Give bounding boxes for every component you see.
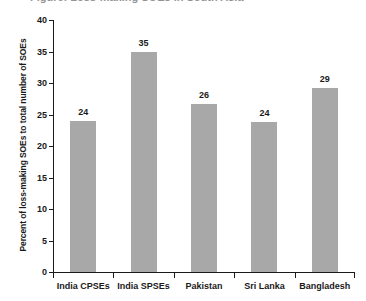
bar-value-label: 35 [139,38,149,48]
x-axis-category-label: India SPSEs [117,281,170,291]
y-axis-tick-label: 15 [37,173,47,183]
bar [251,122,277,272]
y-axis-tick [49,115,53,116]
y-axis-tick [49,83,53,84]
y-axis-title: Percent of loss-making SOEs to total num… [18,16,28,274]
y-axis-tick [49,241,53,242]
bar-value-label: 24 [78,107,88,117]
cut-off-title-strip: Figure: Loss-making SOEs in South Asia [0,0,366,7]
x-axis-tick [295,273,296,278]
y-axis-tick-label: 0 [42,267,47,277]
y-axis-line [53,20,54,273]
bar [131,52,157,273]
bar-value-label: 24 [259,108,269,118]
x-axis-tick [53,273,54,278]
x-axis-category-label: Pakistan [185,281,222,291]
y-axis-tick-label: 30 [37,78,47,88]
bar-value-label: 29 [320,74,330,84]
bar-chart-figure: Figure: Loss-making SOEs in South Asia P… [0,0,366,301]
y-axis-tick [49,20,53,21]
bar [70,121,96,272]
x-axis-line [53,272,355,273]
y-axis-tick [49,178,53,179]
y-axis-tick-label: 20 [37,141,47,151]
x-axis-category-label: Bangladesh [299,281,350,291]
y-axis-tick-label: 5 [42,236,47,246]
y-axis-tick-label: 25 [37,110,47,120]
y-axis-tick-label: 35 [37,47,47,57]
x-axis-tick [354,273,355,278]
y-axis-tick [49,52,53,53]
y-axis-tick [49,146,53,147]
chart-title-cutoff: Figure: Loss-making SOEs in South Asia [30,0,244,3]
plot-area: 0510152025303540 2435262429 India CPSEsI… [53,20,355,272]
y-axis-tick-label: 10 [37,204,47,214]
y-axis-tick-label: 40 [37,15,47,25]
x-axis-tick [174,273,175,278]
y-axis-tick [49,209,53,210]
bar [191,104,217,272]
x-axis-category-label: India CPSEs [57,281,110,291]
bar-value-label: 26 [199,90,209,100]
bar [312,88,338,272]
x-axis-tick [234,273,235,278]
x-axis-tick [113,273,114,278]
x-axis-category-label: Sri Lanka [244,281,285,291]
